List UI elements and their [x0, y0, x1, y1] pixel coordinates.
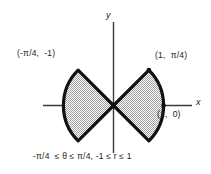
- x-axis-label: x: [196, 98, 201, 107]
- point-label-right-axis: (1, 0): [157, 110, 181, 119]
- right-sector-shape: [114, 70, 164, 141]
- figure-caption: -π/4 ≤ θ ≤ π/4, -1 ≤ r ≤ 1: [33, 152, 132, 161]
- polar-region-figure: y x (-π/4, -1) (1, π/4) (1, 0) -π/4 ≤ θ …: [0, 0, 211, 174]
- y-axis-label: y: [106, 11, 111, 20]
- point-label-upper-left: (-π/4, -1): [17, 49, 55, 58]
- left-sector-shape: [63, 70, 113, 141]
- marker-dot-right-axis: [161, 103, 166, 108]
- marker-dot-upper-right: [147, 68, 152, 73]
- point-label-upper-right: (1, π/4): [155, 51, 187, 60]
- figure-canvas: [0, 0, 211, 174]
